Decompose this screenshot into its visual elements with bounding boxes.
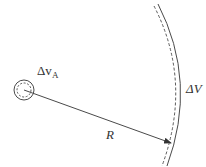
small-volume-label: ΔvA	[37, 63, 59, 80]
shell-label: ΔV	[185, 81, 204, 96]
diagram-canvas: ΔvA ΔV R	[0, 0, 206, 167]
shell-outer-arc	[158, 4, 181, 166]
shell-inner-dashed-arc	[154, 6, 176, 166]
radius-arrow	[24, 90, 171, 143]
radius-label: R	[105, 127, 114, 142]
